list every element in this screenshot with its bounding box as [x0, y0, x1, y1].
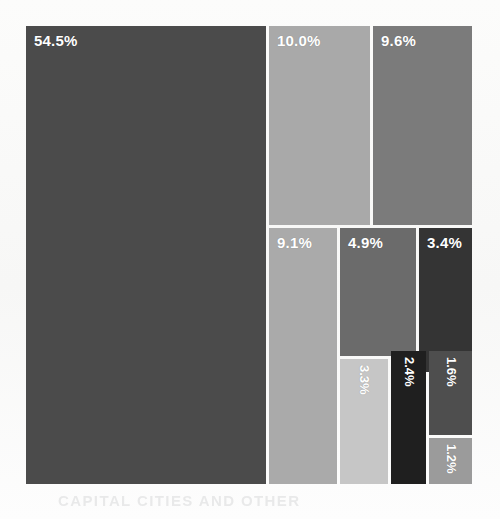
treemap-tile[interactable]: 1.6%: [429, 351, 472, 435]
tile-label: 3.3%: [357, 365, 372, 395]
tile-label: 9.6%: [381, 32, 416, 49]
tile-label-wrapper: 1.6%: [429, 357, 472, 358]
treemap-tile[interactable]: 4.9%: [340, 228, 416, 356]
treemap-chart: 54.5%10.0%9.6%9.1%4.9%3.4%3.3%2.4%1.6%1.…: [26, 26, 472, 484]
treemap-tile[interactable]: 54.5%: [26, 26, 266, 484]
tile-label-wrapper: 2.4%: [391, 357, 426, 358]
tile-label: 1.2%: [443, 444, 458, 474]
treemap-tile[interactable]: 9.1%: [269, 228, 337, 484]
tile-label-wrapper: 3.3%: [340, 365, 388, 366]
tile-label: 2.4%: [401, 357, 416, 387]
treemap-tile[interactable]: 2.4%: [391, 351, 426, 484]
tile-label: 4.9%: [348, 234, 383, 251]
tile-label-wrapper: 1.2%: [429, 444, 472, 445]
scan-bleed-ghost-text: CAPITAL CITIES AND OTHER: [58, 492, 458, 512]
treemap-tile[interactable]: 9.6%: [373, 26, 472, 225]
tile-label: 1.6%: [443, 357, 458, 387]
treemap-tile[interactable]: 10.0%: [269, 26, 370, 225]
tile-label: 9.1%: [277, 234, 312, 251]
treemap-tile[interactable]: 1.2%: [429, 438, 472, 484]
tile-label: 3.4%: [427, 234, 462, 251]
treemap-page: 54.5%10.0%9.6%9.1%4.9%3.4%3.3%2.4%1.6%1.…: [0, 0, 500, 519]
tile-label: 10.0%: [277, 32, 321, 49]
treemap-tile[interactable]: 3.3%: [340, 359, 388, 484]
tile-label: 54.5%: [34, 32, 78, 49]
